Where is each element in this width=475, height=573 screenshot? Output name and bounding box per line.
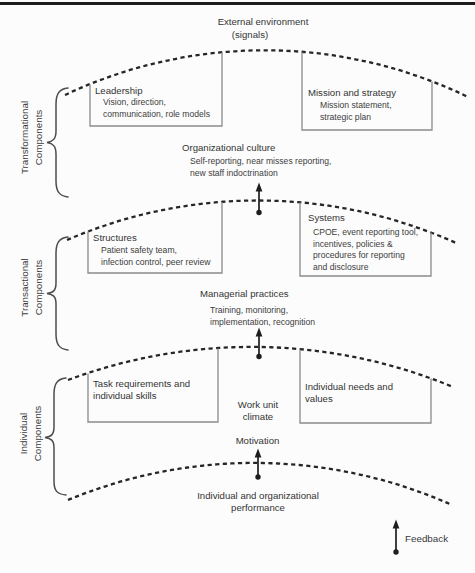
- task-requirements-title: Task requirements and individual skills: [93, 378, 190, 403]
- transformational-components-label: Transformational Components: [17, 62, 44, 212]
- needs-title-line1: Individual needs and: [305, 381, 393, 393]
- individual-label-line2: Components: [30, 358, 44, 508]
- mission-strategy-title: Mission and strategy: [308, 87, 396, 98]
- structures-title: Structures: [93, 232, 137, 243]
- transactional-components-label: Transactional Components: [17, 212, 44, 362]
- structures-desc-line1: Patient safety team,: [101, 245, 210, 257]
- feedback-label: Feedback: [405, 533, 448, 544]
- systems-desc-line1: CPOE, event reporting tool,: [313, 227, 418, 239]
- systems-desc-line4: and disclosure: [313, 262, 418, 274]
- systems-description: CPOE, event reporting tool, incentives, …: [313, 227, 418, 273]
- task-title-line2: individual skills: [93, 390, 190, 402]
- org-culture-desc-line2: new staff indoctrination: [190, 168, 331, 180]
- systems-title: Systems: [308, 212, 345, 223]
- managerial-arrow-head: [256, 328, 263, 337]
- managerial-desc-line2: implementation, recognition: [210, 317, 315, 329]
- organizational-culture-description: Self-reporting, near misses reporting, n…: [190, 156, 331, 179]
- individual-label-line1: Individual: [17, 358, 31, 508]
- culture-link-arrow-icon: [256, 183, 263, 216]
- transactional-brace: [47, 237, 68, 350]
- burke-litwin-patient-safety-diagram: External environment (signals) Transform…: [0, 0, 475, 573]
- leadership-description: Vision, direction, communication, role m…: [103, 97, 210, 120]
- transactional-label-line2: Components: [31, 212, 45, 362]
- leadership-desc-line2: communication, role models: [103, 109, 210, 121]
- transformational-brace: [47, 88, 68, 197]
- structures-description: Patient safety team, infection control, …: [101, 245, 210, 268]
- performance-label: Individual and organizational performanc…: [197, 490, 319, 515]
- external-environment-label: External environment: [218, 16, 309, 27]
- systems-desc-line3: procedures for reporting: [313, 250, 418, 262]
- work-unit-climate-label: Work unit climate: [238, 399, 278, 424]
- managerial-practices-description: Training, monitoring, implementation, re…: [210, 305, 315, 328]
- performance-line2: performance: [197, 502, 319, 514]
- culture-arrow-head: [256, 183, 263, 192]
- structures-desc-line2: infection control, peer review: [101, 257, 210, 269]
- motivation-label: Motivation: [236, 435, 280, 446]
- feedback-arrow-dot: [393, 549, 398, 554]
- motivation-link-arrow-icon: [255, 449, 262, 480]
- culture-arrow-dot: [256, 210, 261, 215]
- individual-components-label: Individual Components: [17, 358, 44, 508]
- motivation-arrow-head: [255, 449, 262, 458]
- feedback-arrow-head: [393, 520, 400, 529]
- work-unit-line1: Work unit: [238, 399, 278, 411]
- leadership-desc-line1: Vision, direction,: [103, 97, 210, 109]
- managerial-arrow-dot: [256, 354, 261, 359]
- mission-strategy-description: Mission statement, strategic plan: [320, 100, 392, 123]
- feedback-arrow-icon: [393, 520, 400, 555]
- needs-title-line2: values: [305, 393, 393, 405]
- work-unit-line2: climate: [238, 411, 278, 423]
- managerial-practices-title: Managerial practices: [200, 288, 289, 299]
- individual-needs-title: Individual needs and values: [305, 381, 393, 406]
- managerial-desc-line1: Training, monitoring,: [210, 305, 315, 317]
- external-environment-signals-label: (signals): [232, 29, 268, 40]
- mission-desc-line1: Mission statement,: [320, 100, 392, 112]
- organizational-culture-title: Organizational culture: [182, 142, 275, 153]
- leadership-title: Leadership: [95, 85, 142, 96]
- performance-line1: Individual and organizational: [197, 490, 319, 502]
- transformational-label-line2: Components: [31, 62, 45, 212]
- individual-brace: [45, 378, 66, 495]
- org-culture-desc-line1: Self-reporting, near misses reporting,: [190, 156, 331, 168]
- diagram-linework: [0, 0, 475, 573]
- managerial-link-arrow-icon: [256, 328, 263, 360]
- task-title-line1: Task requirements and: [93, 378, 190, 390]
- systems-desc-line2: incentives, policies &: [313, 239, 418, 251]
- motivation-arrow-dot: [255, 474, 260, 479]
- transformational-label-line1: Transformational: [17, 62, 31, 212]
- mission-desc-line2: strategic plan: [320, 112, 392, 124]
- transactional-label-line1: Transactional: [17, 212, 31, 362]
